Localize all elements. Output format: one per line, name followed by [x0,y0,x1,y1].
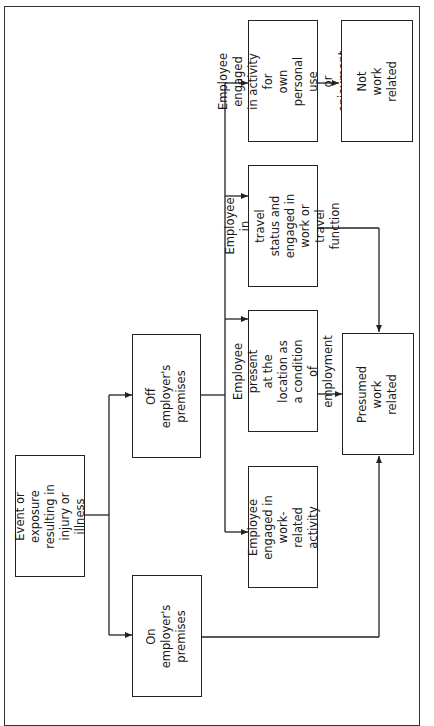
node-travel-status: Employee in travel status and engaged in… [248,165,318,287]
node-on-premises: On employer's premises [132,575,202,697]
node-label: Not work related [355,61,400,102]
node-label: Off employer's premises [144,364,189,428]
node-label: Employee engaged in work-related activit… [246,493,321,561]
node-label: On employer's premises [144,604,189,668]
node-label: Event or exposure resulting in injury or… [13,482,88,550]
node-off-premises: Off employer's premises [132,334,201,458]
node-label: Employee engaged in activity for own per… [216,47,351,115]
node-label: Presumed work related [355,365,400,422]
node-label: Employee present at the location as a co… [231,335,336,408]
node-presumed-work-related: Presumed work related [342,333,414,455]
node-condition-of-employment: Employee present at the location as a co… [248,310,318,432]
node-event: Event or exposure resulting in injury or… [15,455,85,577]
node-not-work-related: Not work related [341,20,413,142]
node-label: Employee in travel status and engaged in… [223,192,343,260]
node-personal-use: Employee engaged in activity for own per… [248,20,318,142]
node-work-related-activity: Employee engaged in work-related activit… [248,466,318,588]
